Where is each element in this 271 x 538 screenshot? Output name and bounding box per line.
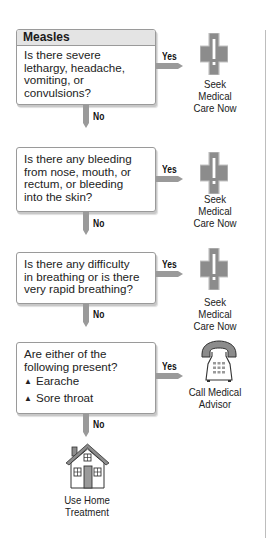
bullet-text: Earache [36,374,79,387]
yes-arrow-icon [156,270,184,278]
yes-arrow-icon [156,62,184,70]
question-box-4: Are either of the following present? ▲Ea… [16,342,156,414]
question-box-1: Measles Is there severe lethargy, headac… [16,29,156,105]
outcome-line: Seek Medical [186,78,244,102]
question-text: Is there any bleeding from nose, mouth, … [17,148,155,207]
triangle-bullet-icon: ▲ [24,377,32,386]
question-line: very rapid breathing? [24,283,149,296]
yes-arrow-icon [156,372,184,380]
outcome-seek-medical-care: Seek Medical Care Now [186,193,244,229]
no-arrow-icon [82,413,90,437]
question-box-2: Is there any bleeding from nose, mouth, … [16,147,156,212]
medical-cross-icon [200,152,228,194]
medical-cross-icon [200,248,228,290]
question-line: Is there any difficulty [24,258,149,271]
yes-label: Yes [162,259,177,270]
triangle-bullet-icon: ▲ [24,394,32,403]
outcome-seek-medical-care: Seek Medical Care Now [186,78,244,114]
medical-cross-icon [200,33,228,75]
question-line: convulsions? [24,87,149,100]
no-arrow-icon [82,104,90,128]
bullet-item: ▲Earache [17,373,155,390]
question-text: Are either of the following present? [17,343,155,373]
bullet-item: ▲Sore throat [17,390,155,407]
outcome-line: Seek Medical [186,193,244,217]
outcome-line: Seek Medical [186,296,244,320]
question-line: into the skin? [24,191,149,204]
outcome-line: Care Now [186,102,244,114]
yes-arrow-icon [156,175,184,183]
yes-label: Yes [162,51,177,62]
no-arrow-icon [82,303,90,327]
question-line: vomiting, or [24,74,149,87]
outcome-use-home-treatment: Use Home Treatment [58,494,116,518]
no-label: No [93,218,104,229]
outcome-seek-medical-care: Seek Medical Care Now [186,296,244,332]
question-line: Is there any bleeding [24,153,149,166]
question-line: Are either of the [24,348,149,361]
outcome-line: Call Medical [186,386,244,398]
outcome-call-medical-advisor: Call Medical Advisor [186,386,244,410]
question-line: following present? [24,361,149,374]
question-text: Is there any difficulty in breathing or … [17,253,155,300]
no-arrow-icon [82,211,90,235]
question-line: Is there severe [24,49,149,62]
no-label: No [93,419,104,430]
question-box-3: Is there any difficulty in breathing or … [16,252,156,304]
outcome-line: Care Now [186,320,244,332]
outcome-line: Advisor [186,398,244,410]
outcome-line: Use Home [58,494,116,506]
no-label: No [93,309,104,320]
flowchart-title: Measles [17,30,155,46]
bullet-text: Sore throat [36,391,93,404]
telephone-icon [200,340,238,382]
outcome-line: Care Now [186,217,244,229]
yes-label: Yes [162,361,177,372]
no-label: No [93,111,104,122]
question-line: rectum, or bleeding [24,178,149,191]
yes-label: Yes [162,164,177,175]
page-divider [265,30,266,538]
question-text: Is there severe lethargy, headache, vomi… [17,46,155,103]
outcome-line: Treatment [58,506,116,518]
house-icon [65,443,110,490]
